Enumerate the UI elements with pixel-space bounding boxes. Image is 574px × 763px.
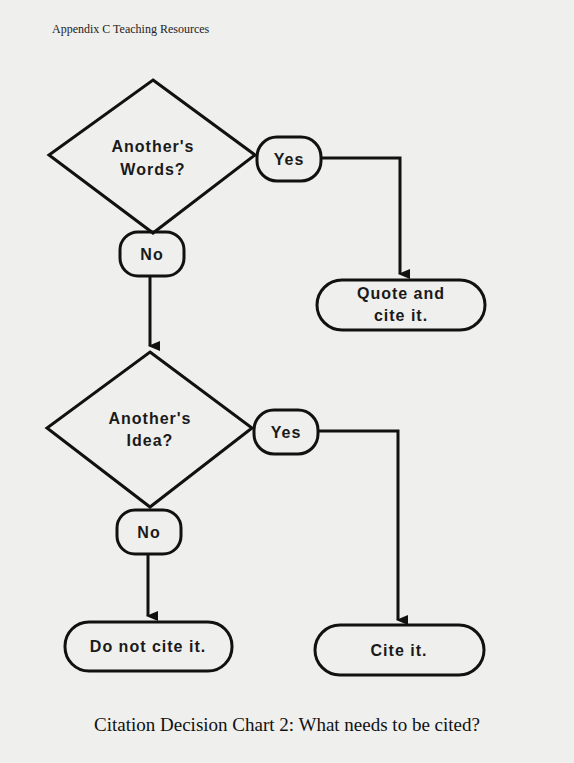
no-1-label: No: [140, 246, 163, 263]
quote-line2: cite it.: [374, 307, 428, 324]
decision-1-diamond: [49, 80, 255, 233]
yes-1-label: Yes: [274, 151, 305, 168]
decision-2-line2: Idea?: [127, 432, 174, 449]
no-2-label: No: [137, 524, 160, 541]
figure-caption: Citation Decision Chart 2: What needs to…: [0, 714, 574, 736]
quote-line1: Quote and: [357, 285, 445, 302]
do-not-cite-label: Do not cite it.: [90, 638, 206, 655]
yes-2-label: Yes: [271, 424, 302, 441]
yes-2-connector: [318, 431, 398, 620]
cite-label: Cite it.: [371, 642, 428, 659]
decision-1-line1: Another's: [111, 138, 194, 155]
yes-1-connector: [321, 158, 400, 274]
decision-1-line2: Words?: [120, 161, 185, 178]
flowchart: Another's Words? Yes No Quote and cite i…: [0, 0, 574, 763]
decision-2-line1: Another's: [108, 410, 191, 427]
decision-2-diamond: [47, 352, 252, 507]
page: Appendix C Teaching Resources: [0, 0, 574, 763]
